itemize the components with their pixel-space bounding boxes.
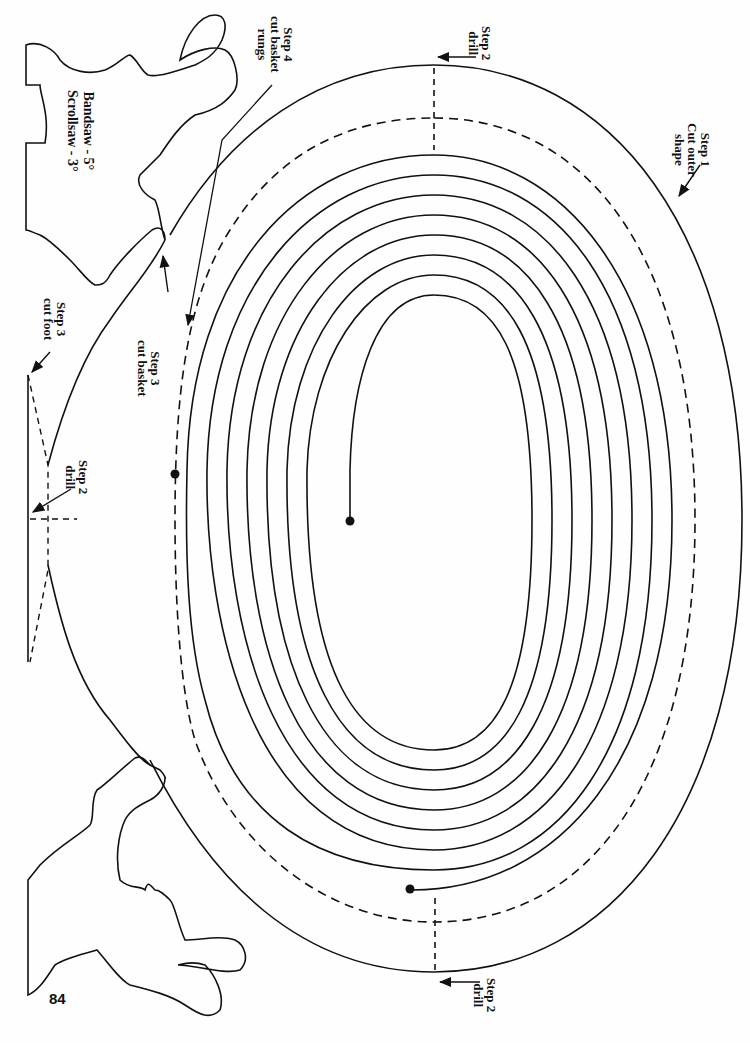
upper-bunny-outline [26, 15, 237, 285]
step4-label: Step 4 cut basket rungs [256, 16, 295, 73]
spiral-start-dot [346, 517, 355, 526]
lower-bunny-outline [28, 757, 245, 1015]
rung-drill-dot [406, 885, 415, 894]
pattern-drawing [0, 0, 750, 1043]
page-number: 84 [49, 990, 66, 1007]
step3-basket-arrow [163, 256, 168, 292]
spiral-rungs [186, 155, 672, 890]
basket-dashed-line [175, 118, 695, 922]
step3-foot-label: Step 3 cut foot [42, 298, 68, 340]
step1-label: Step 1 Cut outer shape [673, 123, 712, 177]
outer-shape-line [150, 65, 742, 972]
pattern-page: Step 1 Cut outer shape Step 2 drill Step… [0, 0, 750, 1043]
basket-drill-dot [171, 470, 180, 479]
step2-top-label: Step 2 drill [467, 26, 493, 60]
step3-foot-arrow [32, 352, 50, 372]
step3-basket-label: Step 3 cut basket [136, 340, 162, 397]
saw-settings-label: Bandsaw - 5° Scrollsaw - 3° [64, 90, 96, 172]
step2-foot-label: Step 2 drill [64, 460, 90, 494]
step2-bottom-label: Step 2 drill [472, 978, 498, 1012]
